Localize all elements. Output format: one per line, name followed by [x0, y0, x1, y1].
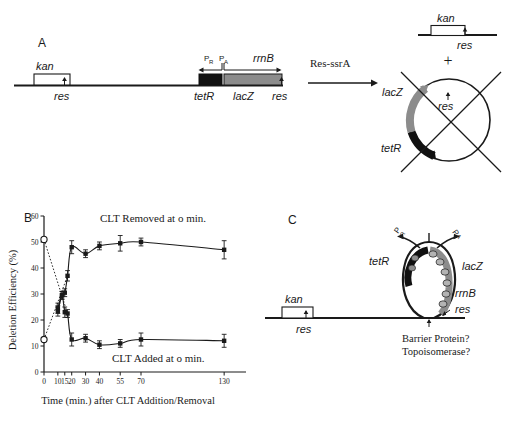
chart-x-tick-label: 0 [42, 377, 46, 386]
panel-c-res-left-label: res [296, 323, 312, 335]
chart-data-point [118, 241, 122, 245]
chart-series-group [41, 236, 227, 349]
chart-data-point [118, 341, 122, 345]
chart-y-tick-label: 50 [31, 238, 39, 247]
circle-tetR-arc [412, 132, 435, 156]
tetR-gene-label: tetR [194, 90, 214, 102]
chart-data-point [56, 306, 60, 310]
figure-root: A kan res tetR lacZ res P R P A rrnB [0, 0, 515, 424]
figure-canvas: A kan res tetR lacZ res P R P A rrnB [0, 0, 515, 424]
chart-y-tick-label: 60 [31, 212, 39, 221]
chart-x-tick-label: 30 [82, 377, 90, 386]
lacZ-gene-label: lacZ [233, 90, 255, 102]
chart-data-point [70, 245, 74, 249]
chart-data-point [97, 343, 101, 347]
chart-x-tick-label: 40 [96, 377, 104, 386]
product-kan-label: kan [437, 12, 455, 24]
chart-x-tick-label: 130 [219, 377, 231, 386]
panel-c-rrnB-label: rrnB [455, 287, 476, 299]
product-res-label: res [457, 39, 473, 51]
annotation-clt-removed: CLT Removed at o min. [100, 212, 206, 224]
panel-b: B 0102030405060010152030405570130 Deleti… [7, 211, 246, 407]
promoter-r-arrowhead [199, 67, 204, 72]
promoter-r-subscript: R [209, 59, 214, 65]
panel-a-letter: A [38, 36, 46, 50]
chart-data-point [222, 339, 226, 343]
rrnB-terminator-label: rrnB [253, 52, 274, 64]
chart-data-point [65, 274, 69, 278]
panel-c-tetR-label: tetR [369, 255, 389, 267]
res-right-label: res [272, 90, 288, 102]
chart-dotted-guide-2 [44, 239, 68, 313]
panel-c: C kan res P [265, 213, 484, 357]
chart-x-tick-label: 20 [68, 377, 76, 386]
topoisomerase-question: Topoisomerase? [402, 346, 470, 357]
chart-fit-curve-1 [58, 242, 224, 311]
circle-tetR-label: tetR [381, 142, 401, 154]
chart-data-point [97, 244, 101, 248]
chart-y-tick-label: 10 [31, 342, 39, 351]
circle-res-arrowhead [446, 92, 451, 96]
chart-series-2 [41, 236, 227, 348]
res-left-label: res [54, 90, 70, 102]
kan-gene-label: kan [36, 60, 54, 72]
lacZ-gene-box [224, 74, 282, 85]
reaction-arrowhead [371, 80, 378, 87]
chart-x-tick-label: 70 [137, 377, 145, 386]
chart-data-point [139, 337, 143, 341]
promoter-a-subscript: A [224, 59, 228, 65]
chart-y-tick-label: 40 [31, 264, 39, 273]
panel-c-lacZ-label: lacZ [462, 260, 484, 272]
chart-x-tick-label: 55 [116, 377, 124, 386]
chart-x-axis-title: Time (min.) after CLT Addition/Removal [41, 395, 215, 407]
chart-open-marker-2 [41, 236, 47, 242]
panel-c-res-loop-label: res [455, 303, 471, 315]
chart-data-point [83, 336, 87, 340]
panel-c-kan-label: kan [285, 293, 303, 305]
promoter-a-arrowhead [277, 67, 282, 72]
chart-open-marker-1 [41, 336, 47, 342]
chart-data-point [83, 252, 87, 256]
circle-lacZ-label: lacZ [382, 86, 404, 98]
chart-y-tick-label: 30 [31, 290, 39, 299]
chart-y-axis-title: Deletion Efficiency (%) [7, 249, 19, 350]
chart-data-point [70, 337, 74, 341]
product-plus-sign: + [443, 52, 452, 69]
barrier-protein-question: Barrier Protein? [402, 333, 470, 344]
chart-data-point [139, 240, 143, 244]
panel-a: A kan res tetR lacZ res P R P A rrnB [14, 12, 501, 172]
panel-c-letter: C [288, 213, 297, 227]
annotation-clt-added: CLT Added at o min. [112, 352, 205, 364]
tetR-gene-box [199, 74, 222, 85]
circle-lacZ-arc [410, 89, 426, 133]
panel-c-kan-box [282, 307, 313, 318]
product-kan-box [431, 26, 465, 36]
chart-data-point [60, 293, 64, 297]
reaction-label: Res-ssrA [310, 57, 350, 69]
chart-data-point [222, 248, 226, 252]
barrier-protein-arrowhead [427, 319, 432, 323]
circle-res-label: res [438, 100, 454, 112]
chart-y-tick-label: 0 [35, 368, 39, 377]
chart-data-point [65, 311, 69, 315]
chart-y-tick-label: 20 [31, 316, 39, 325]
